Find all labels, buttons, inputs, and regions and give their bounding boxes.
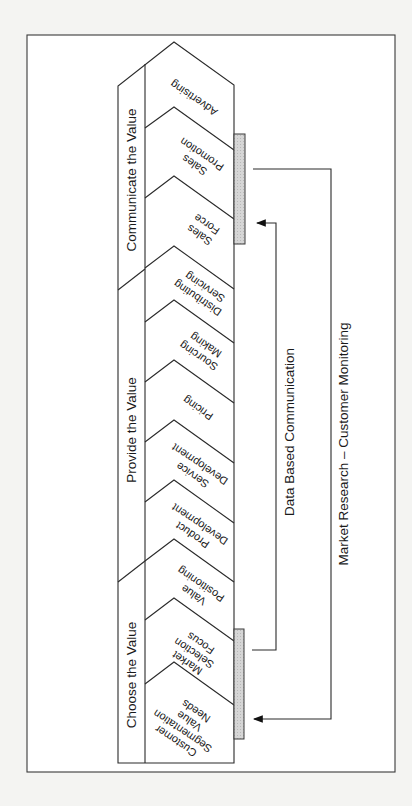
section-label-provide: Provide the Value <box>124 377 139 483</box>
data-based-communication-label: Data Based Communication <box>282 348 297 516</box>
section-label-communicate: Communicate the Value <box>124 108 139 251</box>
value-delivery-diagram: Communicate the Value Provide the Value … <box>0 0 412 806</box>
hatched-bar-communicate <box>234 134 245 244</box>
market-research-label: Market Research – Customer Monitoring <box>336 322 351 565</box>
section-label-choose: Choose the Value <box>124 622 139 728</box>
hatched-bar-choose <box>234 629 244 739</box>
